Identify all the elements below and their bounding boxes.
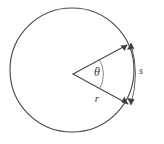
angle-label-theta: θ [94,65,100,79]
radius-line-lower [73,74,128,104]
circle-outline [10,8,134,132]
geometry-figure-canvas: θ r s [0,0,164,144]
radius-label-r: r [95,92,100,104]
radius-line-upper [73,45,127,74]
dimension-arrowhead-bottom [128,98,135,105]
arc-length-label-s: s [139,65,143,76]
circle-sector-diagram: θ r s [0,0,164,144]
